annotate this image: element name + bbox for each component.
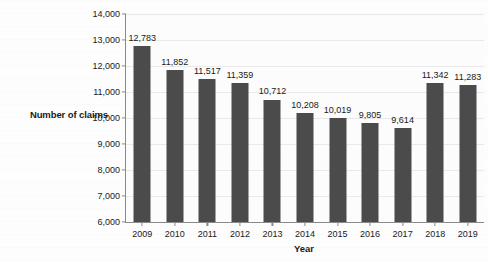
x-tick-mark — [174, 222, 175, 226]
x-tick-slot: 2011 — [191, 14, 224, 222]
x-tick-label: 2017 — [393, 229, 413, 239]
x-tick-mark — [142, 222, 143, 226]
x-tick-label: 2009 — [132, 229, 152, 239]
x-tick-mark — [435, 222, 436, 226]
x-tick-slot: 2015 — [321, 14, 354, 222]
x-tick-label: 2018 — [425, 229, 445, 239]
x-tick-slot: 2017 — [386, 14, 419, 222]
y-tick-label: 11,000 — [93, 87, 120, 97]
y-tick-label: 10,000 — [92, 113, 120, 123]
y-tick-label: 13,000 — [92, 35, 120, 45]
x-tick-label: 2013 — [262, 229, 282, 239]
x-tick-slot: 2016 — [354, 14, 387, 222]
y-tick-label: 7,000 — [97, 191, 120, 201]
plot-area: 6,0007,0008,0009,00010,00011,00012,00013… — [125, 14, 484, 223]
x-tick-mark — [272, 222, 273, 226]
x-tick-mark — [304, 222, 305, 226]
bar-chart: Number of claims 6,0007,0008,0009,00010,… — [0, 0, 488, 262]
y-tick-label: 6,000 — [97, 217, 120, 227]
x-tick-mark — [467, 222, 468, 226]
y-tick-label: 8,000 — [97, 165, 120, 175]
x-tick-label: 2014 — [295, 229, 315, 239]
x-tick-label: 2016 — [360, 229, 380, 239]
x-tick-mark — [402, 222, 403, 226]
x-tick-mark — [337, 222, 338, 226]
x-tick-slot: 2009 — [126, 14, 159, 222]
x-tick-label: 2012 — [230, 229, 250, 239]
x-tick-label: 2015 — [328, 229, 348, 239]
x-tick-label: 2010 — [165, 229, 185, 239]
x-tick-label: 2019 — [458, 229, 478, 239]
x-tick-mark — [207, 222, 208, 226]
y-tick-label: 12,000 — [92, 61, 120, 71]
x-tick-label: 2011 — [198, 229, 217, 239]
y-tick-label: 9,000 — [97, 139, 120, 149]
x-tick-slot: 2013 — [256, 14, 289, 222]
x-tick-slot: 2018 — [419, 14, 452, 222]
x-tick-slot: 2012 — [224, 14, 257, 222]
x-tick-slot: 2019 — [451, 14, 484, 222]
x-axis-title: Year — [125, 243, 483, 254]
y-tick-label: 14,000 — [92, 9, 120, 19]
x-tick-mark — [239, 222, 240, 226]
x-tick-mark — [369, 222, 370, 226]
x-tick-slot: 2010 — [159, 14, 192, 222]
x-tick-slot: 2014 — [289, 14, 322, 222]
